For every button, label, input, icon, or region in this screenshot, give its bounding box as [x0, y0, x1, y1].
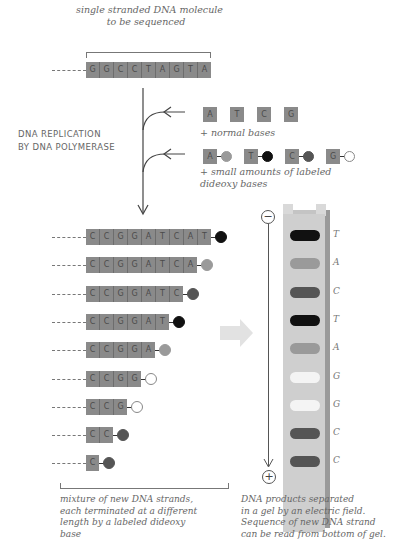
- normal-base-box: C: [257, 107, 271, 122]
- base-box: G: [114, 314, 128, 330]
- base-box: T: [156, 257, 170, 273]
- base-box: C: [100, 399, 114, 415]
- base-box: G: [86, 62, 100, 78]
- dye-label-icon: [221, 151, 232, 162]
- base-box: A: [156, 62, 170, 78]
- caption-line: length by a labeled dideoxy: [60, 517, 197, 529]
- base-box: C: [114, 62, 128, 78]
- base-box: C: [100, 257, 114, 273]
- base-box: C: [100, 229, 114, 245]
- base-box: T: [156, 286, 170, 302]
- gel-band-base-label: G: [333, 371, 340, 381]
- dye-label-icon: [159, 344, 171, 356]
- caption-line: DNA products separated: [241, 494, 386, 506]
- base-box: G: [114, 229, 128, 245]
- base-box: G: [100, 62, 114, 78]
- dideoxy-base-box: T: [244, 149, 258, 164]
- template-caption-line1: single stranded DNA molecule: [76, 4, 216, 16]
- fragment-tail: [52, 322, 86, 323]
- base-box: C: [100, 314, 114, 330]
- gel-band: [290, 400, 320, 411]
- dye-label-icon: [131, 401, 143, 413]
- gel-band: [290, 372, 320, 383]
- dye-label-icon: [145, 373, 157, 385]
- block-arrow-icon: [218, 318, 258, 348]
- fragment-strand: CCG: [86, 399, 127, 415]
- dye-label-icon: [117, 429, 129, 441]
- fragment-tail: [52, 265, 86, 266]
- dideoxy-caption-line2: dideoxy bases: [200, 178, 331, 190]
- positive-electrode-icon: +: [262, 470, 276, 484]
- template-caption-line2: to be sequenced: [76, 16, 216, 28]
- dideoxy-caption: + small amounts of labeled dideoxy bases: [200, 166, 331, 190]
- gel-band-base-label: A: [333, 342, 340, 352]
- dideoxy-caption-line1: + small amounts of labeled: [200, 166, 331, 178]
- base-box: A: [142, 342, 155, 358]
- dye-label-icon: [303, 151, 314, 162]
- field-direction-line: [268, 224, 269, 466]
- base-box: G: [128, 257, 142, 273]
- base-box: C: [170, 286, 183, 302]
- caption-line: mixture of new DNA strands,: [60, 494, 197, 506]
- fragment-tail: [52, 435, 86, 436]
- template-bracket: [86, 52, 211, 58]
- base-box: C: [86, 371, 100, 387]
- process-label: DNA REPLICATION BY DNA POLYMERASE: [18, 128, 115, 154]
- base-box: C: [100, 371, 114, 387]
- fragment-strand: CCGGATCAT: [86, 229, 211, 245]
- gel-band-base-label: A: [333, 257, 340, 267]
- dye-label-icon: [103, 457, 115, 469]
- fragment-strand: CCGGAT: [86, 314, 169, 330]
- base-box: C: [128, 62, 142, 78]
- gel-band: [290, 456, 320, 467]
- caption-line: in a gel by an electric field.: [241, 506, 386, 518]
- base-box: C: [100, 427, 113, 443]
- base-box: G: [128, 342, 142, 358]
- caption-line: base: [60, 529, 197, 541]
- base-box: G: [114, 257, 128, 273]
- process-label-line2: BY DNA POLYMERASE: [18, 141, 115, 154]
- gel-band: [290, 343, 320, 354]
- dideoxy-base-box: G: [326, 149, 340, 164]
- base-box: C: [86, 342, 100, 358]
- base-box: A: [184, 229, 198, 245]
- base-box: G: [114, 342, 128, 358]
- fragment-strand: C: [86, 455, 99, 471]
- caption-line: Sequence of new DNA strand: [241, 517, 386, 529]
- dye-label-icon: [187, 288, 199, 300]
- base-box: C: [86, 257, 100, 273]
- fragment-tail: [52, 407, 86, 408]
- base-box: C: [170, 229, 184, 245]
- fragments-caption: mixture of new DNA strands,each terminat…: [60, 494, 197, 540]
- base-box: G: [114, 371, 128, 387]
- base-box: A: [142, 286, 156, 302]
- template-caption: single stranded DNA molecule to be seque…: [76, 4, 216, 28]
- base-box: C: [170, 257, 184, 273]
- dye-label-icon: [344, 151, 355, 162]
- dye-label-icon: [215, 231, 227, 243]
- gel-band-base-label: C: [333, 455, 340, 465]
- base-box: A: [184, 257, 197, 273]
- dye-label-icon: [262, 151, 273, 162]
- base-box: T: [142, 62, 156, 78]
- gel-band-base-label: C: [333, 427, 340, 437]
- gel-side: [325, 210, 330, 528]
- fragment-tail: [52, 294, 86, 295]
- base-box: A: [198, 62, 211, 78]
- base-box: C: [86, 455, 99, 471]
- fragment-tail: [52, 463, 86, 464]
- fragments-bracket: [60, 483, 229, 489]
- fragment-strand: CC: [86, 427, 113, 443]
- base-box: T: [156, 229, 170, 245]
- base-box: C: [86, 427, 100, 443]
- base-box: C: [86, 399, 100, 415]
- caption-line: can be read from bottom of gel.: [241, 529, 386, 541]
- dideoxy-base-box: A: [203, 149, 217, 164]
- gel-band: [290, 428, 320, 439]
- fragment-strand: CCGG: [86, 371, 141, 387]
- base-box: G: [170, 62, 184, 78]
- template-strand: GGCCTAGTA: [86, 62, 211, 78]
- base-box: G: [128, 314, 142, 330]
- replication-arrow: [120, 80, 200, 220]
- base-box: C: [100, 286, 114, 302]
